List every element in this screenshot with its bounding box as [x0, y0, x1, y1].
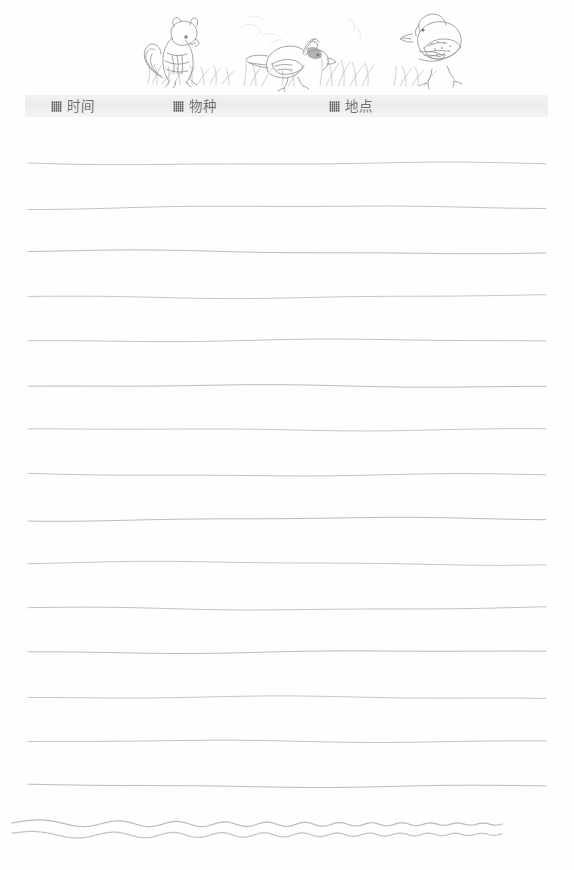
chipmunk-sketch — [144, 18, 199, 89]
writing-line — [28, 517, 546, 521]
wave-line — [12, 831, 502, 838]
writing-line — [28, 607, 546, 610]
writing-line — [28, 295, 546, 299]
writing-line — [28, 696, 546, 698]
grass-tufts — [148, 59, 436, 86]
writing-line — [28, 250, 546, 254]
hatched-square-icon — [173, 101, 184, 112]
writing-lines — [0, 0, 574, 870]
writing-line — [28, 561, 546, 565]
hatched-square-icon — [51, 101, 62, 112]
field-place[interactable]: 地点 — [329, 96, 372, 116]
writing-line — [28, 162, 546, 165]
worksheet-page: 时间 物种 地点 — [0, 0, 574, 870]
writing-line — [28, 385, 546, 388]
writing-line — [28, 206, 546, 209]
field-species[interactable]: 物种 — [173, 96, 216, 116]
writing-line — [28, 740, 546, 742]
hatched-square-icon — [329, 101, 340, 112]
writing-line — [28, 429, 546, 431]
writing-line — [28, 784, 546, 787]
wildlife-sketch-header — [0, 6, 574, 92]
writing-line — [28, 473, 546, 476]
wave-line — [12, 820, 502, 827]
field-species-label: 物种 — [189, 99, 216, 113]
writing-line — [28, 651, 546, 654]
sparrow-bird-sketch — [400, 14, 462, 89]
field-place-label: 地点 — [345, 99, 372, 113]
field-label-band: 时间 物种 地点 — [25, 95, 548, 117]
writing-line — [28, 339, 546, 342]
background-scribble — [240, 16, 361, 46]
field-time[interactable]: 时间 — [51, 96, 94, 116]
bottom-wave-decoration — [0, 808, 574, 848]
field-time-label: 时间 — [67, 99, 94, 113]
